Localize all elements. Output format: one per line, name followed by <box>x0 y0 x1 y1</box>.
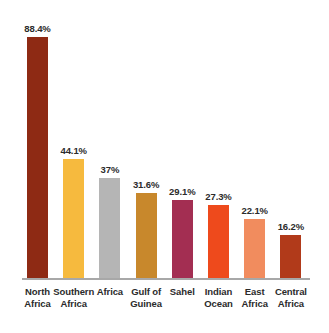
bar-group[interactable]: 37% <box>99 2 120 280</box>
bar[interactable]: 16.2% <box>280 235 301 280</box>
x-axis-label-line: Africa <box>48 298 100 310</box>
x-axis-labels: NorthAfricaSouthernAfricaAfricaGulf ofGu… <box>0 286 329 332</box>
bar-value-label: 88.4% <box>24 23 50 34</box>
bar[interactable]: 88.4% <box>27 37 48 280</box>
bar[interactable]: 22.1% <box>244 219 265 280</box>
x-axis-label-line: Central <box>265 286 317 298</box>
bar-group[interactable]: 22.1% <box>244 2 265 280</box>
x-axis-label-line: Africa <box>265 298 317 310</box>
axis-baseline <box>22 278 310 280</box>
bar-value-label: 37% <box>101 164 120 175</box>
bar-value-label: 44.1% <box>60 145 86 156</box>
bar-value-label: 27.3% <box>205 191 231 202</box>
bar-group[interactable]: 29.1% <box>172 2 193 280</box>
bar[interactable]: 44.1% <box>63 159 84 280</box>
plot-area: 88.4%44.1%37%31.6%29.1%27.3%22.1%16.2% <box>0 0 329 280</box>
bar[interactable]: 27.3% <box>208 205 229 280</box>
bar-value-label: 31.6% <box>133 179 159 190</box>
x-axis-label: CentralAfrica <box>265 286 317 309</box>
bar[interactable]: 31.6% <box>136 193 157 280</box>
bar-group[interactable]: 44.1% <box>63 2 84 280</box>
bar-group[interactable]: 31.6% <box>136 2 157 280</box>
bar-group[interactable]: 27.3% <box>208 2 229 280</box>
bar-chart: 88.4%44.1%37%31.6%29.1%27.3%22.1%16.2% N… <box>0 0 329 333</box>
bar-value-label: 22.1% <box>241 205 267 216</box>
bar-value-label: 29.1% <box>169 186 195 197</box>
bar-group[interactable]: 88.4% <box>27 2 48 280</box>
x-axis-label-line: Guinea <box>120 298 172 310</box>
bar[interactable]: 37% <box>99 178 120 280</box>
bar-group[interactable]: 16.2% <box>280 2 301 280</box>
bar[interactable]: 29.1% <box>172 200 193 280</box>
bar-value-label: 16.2% <box>278 221 304 232</box>
